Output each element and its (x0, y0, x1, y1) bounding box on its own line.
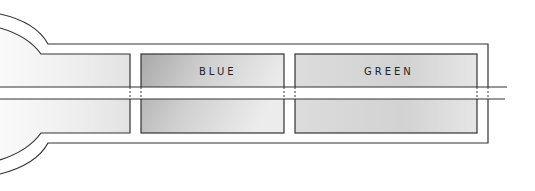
diagram-canvas: BLUE GREEN (0, 0, 535, 191)
label-green: GREEN (364, 66, 414, 77)
label-blue: BLUE (199, 66, 237, 77)
passage-rail (0, 87, 507, 99)
